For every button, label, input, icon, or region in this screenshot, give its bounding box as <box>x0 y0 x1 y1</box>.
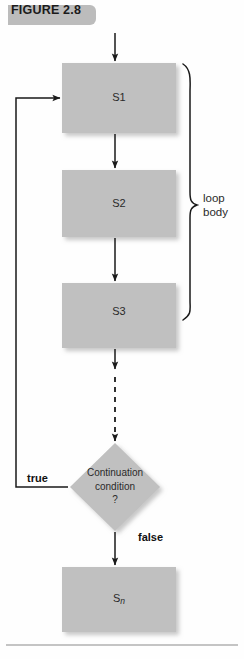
loop-body-line-1: loop <box>203 191 228 205</box>
annotation-label-loop-body: loop body <box>203 191 228 219</box>
edge-true-feedback <box>16 98 68 487</box>
node-label-s1: S1 <box>62 91 176 105</box>
decision-line-1: Continuation <box>70 466 160 480</box>
decision-line-3: ? <box>70 493 160 507</box>
node-label-sn: Sn <box>62 592 176 606</box>
loop-body-brace-icon <box>183 64 197 320</box>
loop-body-line-2: body <box>203 205 228 219</box>
node-label-decision: Continuation condition ? <box>70 466 160 507</box>
decision-line-2: condition <box>70 480 160 494</box>
figure-container: FIGURE 2.8 <box>0 0 244 659</box>
node-label-s2: S2 <box>62 197 176 211</box>
node-label-sn-subscript: n <box>120 596 125 606</box>
edge-label-false: false <box>138 531 163 543</box>
edge-label-true: true <box>27 472 48 484</box>
node-label-s3: S3 <box>62 305 176 319</box>
